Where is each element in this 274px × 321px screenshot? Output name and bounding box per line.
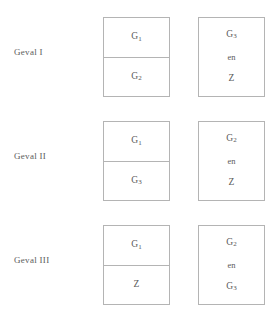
term-label: G2	[226, 134, 237, 145]
term-label: Z	[228, 178, 234, 189]
term-base: G	[226, 237, 233, 247]
term-base: G	[131, 31, 138, 41]
case-row: Geval II G1 G3 G2 en Z	[0, 121, 274, 201]
term-label: G3	[226, 30, 237, 41]
case-1-left-lower-cell: G2	[104, 57, 169, 96]
term-label: G3	[131, 176, 142, 187]
case-3-left-box: G1 Z	[103, 225, 170, 305]
term-base: G	[226, 133, 233, 143]
case-3-right-second-term: G3	[199, 276, 264, 298]
case-1-right-first-term: G3	[199, 24, 264, 46]
conjunction-label: en	[227, 53, 235, 62]
case-3-left-lower-cell: Z	[104, 265, 169, 304]
case-2-right-box: G2 en Z	[198, 121, 265, 201]
case-2-right-first-term: G2	[199, 128, 264, 150]
term-label: G3	[226, 282, 237, 293]
case-1-left-upper-cell: G1	[104, 18, 169, 57]
term-base: G	[226, 281, 233, 291]
term-subscript: 2	[233, 240, 237, 248]
term-label: G1	[131, 240, 142, 251]
term-subscript: 1	[138, 243, 142, 251]
term-subscript: 3	[233, 32, 237, 40]
term-subscript: 3	[138, 178, 142, 186]
term-base: G	[131, 71, 138, 81]
case-label-1: Geval I	[14, 48, 43, 57]
conjunction-label: en	[227, 157, 235, 166]
case-2-left-upper-cell: G1	[104, 122, 169, 161]
term-base: G	[131, 175, 138, 185]
case-diagram: Geval I G1 G2 G3 en Z Geval II	[0, 0, 274, 321]
term-label: G2	[226, 238, 237, 249]
term-base: G	[131, 239, 138, 249]
case-1-right-conjunction: en	[199, 46, 264, 68]
case-1-right-box: G3 en Z	[198, 17, 265, 97]
conjunction-label: en	[227, 261, 235, 270]
case-1-left-box: G1 G2	[103, 17, 170, 97]
term-subscript: 2	[138, 74, 142, 82]
case-3-right-box: G2 en G3	[198, 225, 265, 305]
term-subscript: 3	[233, 284, 237, 292]
case-2-left-lower-cell: G3	[104, 161, 169, 200]
term-base: G	[226, 29, 233, 39]
case-3-right-conjunction: en	[199, 254, 264, 276]
case-3-left-upper-cell: G1	[104, 226, 169, 265]
case-row: Geval III G1 Z G2 en G3	[0, 225, 274, 305]
case-label-2: Geval II	[14, 152, 46, 161]
case-2-right-conjunction: en	[199, 150, 264, 172]
term-label: Z	[133, 280, 139, 291]
term-base: G	[131, 135, 138, 145]
term-subscript: 1	[138, 139, 142, 147]
term-label: Z	[228, 74, 234, 85]
case-label-3: Geval III	[14, 256, 49, 265]
case-3-right-first-term: G2	[199, 232, 264, 254]
case-row: Geval I G1 G2 G3 en Z	[0, 17, 274, 97]
term-subscript: 2	[233, 136, 237, 144]
case-1-right-second-term: Z	[199, 68, 264, 90]
term-label: G1	[131, 32, 142, 43]
term-label: G2	[131, 72, 142, 83]
term-label: G1	[131, 136, 142, 147]
case-2-left-box: G1 G3	[103, 121, 170, 201]
case-2-right-second-term: Z	[199, 172, 264, 194]
term-subscript: 1	[138, 35, 142, 43]
